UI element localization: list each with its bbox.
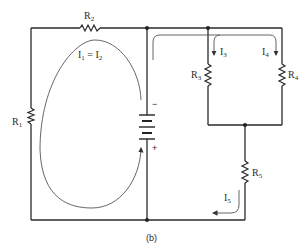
svg-text:R1: R1 — [12, 116, 23, 129]
resistor-r4: R4 — [279, 64, 299, 86]
i5-current-arrow: I5 — [213, 190, 239, 213]
circuit-diagram: R2 R1 R3 R4 R5 − + I1 = I2 I3 — [0, 0, 308, 250]
loop-current-label: I1 = I2 — [78, 49, 103, 62]
battery-plus-label: + — [152, 143, 157, 153]
svg-text:R3: R3 — [191, 69, 202, 82]
i3-label: I3 — [220, 46, 227, 59]
resistor-r3: R3 — [191, 64, 211, 86]
resistor-r5: R5 — [242, 161, 263, 183]
branch-current-arrows: I3 I4 — [153, 35, 276, 60]
battery-minus-label: − — [152, 99, 157, 109]
svg-text:R5: R5 — [252, 167, 263, 180]
battery-icon: − + — [139, 99, 157, 153]
i4-label: I4 — [262, 46, 269, 59]
loop-current-arrow: I1 = I2 — [40, 40, 141, 208]
resistor-r2: R2 — [80, 10, 100, 31]
figure-caption: (b) — [146, 233, 157, 243]
svg-text:R2: R2 — [84, 10, 95, 23]
junction-nodes — [145, 26, 247, 222]
svg-text:R4: R4 — [288, 69, 299, 82]
i5-label: I5 — [224, 192, 231, 205]
